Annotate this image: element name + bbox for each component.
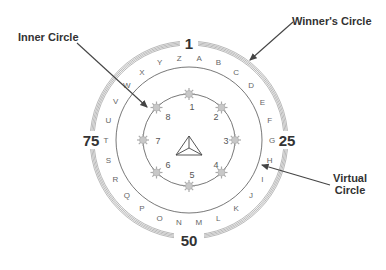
- number-6: 6: [165, 160, 170, 170]
- letter-l: L: [216, 214, 221, 223]
- star-icon: [151, 167, 163, 179]
- letter-k: K: [233, 204, 239, 213]
- triangle-pyramid-icon: [176, 136, 202, 155]
- star-icon: [183, 180, 195, 192]
- letter-b: B: [216, 58, 221, 67]
- letter-j: J: [249, 191, 253, 200]
- virtual-circle-arrow: [262, 165, 330, 185]
- star-icon: [229, 134, 241, 146]
- letter-o: O: [156, 214, 162, 223]
- letter-d: D: [248, 81, 254, 90]
- number-4: 4: [213, 160, 218, 170]
- winners-circle-label: Winner's Circle: [292, 15, 372, 27]
- virtual-circle-label-line2: Circle: [333, 184, 367, 196]
- letter-y: Y: [157, 58, 163, 67]
- marker-50: 50: [181, 232, 198, 249]
- letter-p: P: [139, 204, 144, 213]
- star-icon: [137, 134, 149, 146]
- marker-25: 25: [279, 132, 296, 149]
- number-2: 2: [213, 112, 218, 122]
- letter-g: G: [269, 136, 275, 145]
- letter-x: X: [139, 68, 145, 77]
- letter-u: U: [106, 116, 112, 125]
- letter-s: S: [106, 156, 111, 165]
- number-8: 8: [165, 112, 170, 122]
- letter-h: H: [267, 156, 273, 165]
- letter-i: I: [261, 175, 263, 184]
- number-3: 3: [223, 136, 228, 146]
- letter-e: E: [260, 98, 265, 107]
- letter-z: Z: [177, 54, 182, 63]
- letter-r: R: [113, 175, 119, 184]
- letter-f: F: [267, 116, 272, 125]
- letter-t: T: [104, 136, 109, 145]
- number-5: 5: [189, 170, 194, 180]
- letter-q: Q: [124, 191, 130, 200]
- star-icon: [151, 102, 163, 114]
- winners-circle-arrow: [250, 22, 293, 60]
- marker-75: 75: [83, 132, 100, 149]
- star-icon: [183, 88, 195, 100]
- letter-n: N: [176, 218, 182, 227]
- letter-a: A: [196, 54, 202, 63]
- number-7: 7: [155, 136, 160, 146]
- number-1: 1: [189, 102, 194, 112]
- letter-m: M: [196, 218, 203, 227]
- inner-circle-label: Inner Circle: [18, 31, 79, 43]
- letter-v: V: [113, 97, 119, 106]
- virtual-circle-label: Virtual Circle: [333, 172, 367, 196]
- letter-c: C: [233, 68, 239, 77]
- marker-1: 1: [185, 35, 193, 52]
- virtual-circle-label-line1: Virtual: [333, 172, 367, 184]
